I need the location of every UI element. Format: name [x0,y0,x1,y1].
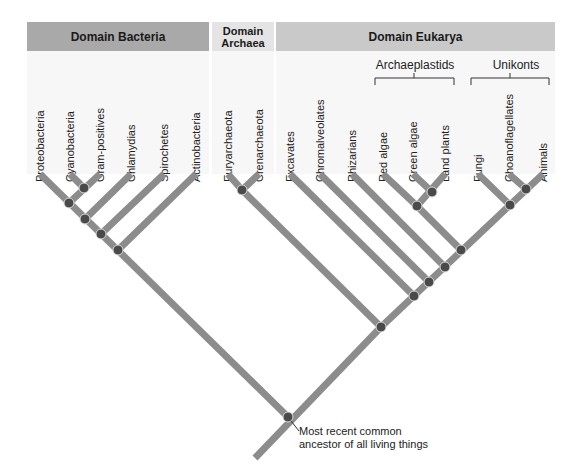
branch-node [113,245,123,255]
nodes [64,183,531,422]
group-brackets [375,73,549,85]
annotation-leader-line [291,421,299,431]
archaeplastids-bracket [375,73,454,85]
branch [40,174,288,417]
branch-node [440,262,450,272]
root-annotation-line1: Most recent common [299,425,402,437]
root-annotation: Most recent common ancestor of all livin… [299,425,428,451]
branch [320,174,429,282]
branch-node [80,214,90,224]
branch-node [456,245,466,255]
branch-node [521,184,531,194]
branch-node [427,187,437,197]
branch-node [237,185,247,195]
unikonts-bracket [471,73,549,85]
phylogenetic-tree [0,0,575,468]
branch-node [96,229,106,239]
branch-node [283,412,293,422]
branch [478,174,510,205]
branch-node [409,291,419,301]
branch [101,174,164,234]
branch-node [505,200,515,210]
branch-node [64,198,74,208]
branch [290,174,414,296]
branch-node [376,322,386,332]
branch [383,174,417,206]
branch-node [412,201,422,211]
branch-node [424,277,434,287]
branch-node [79,183,89,193]
root-annotation-line2: ancestor of all living things [299,438,428,450]
